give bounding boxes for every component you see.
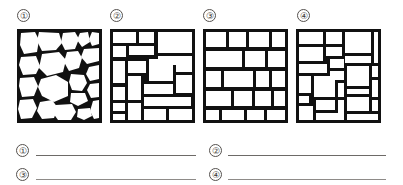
answer-label-2: ②	[209, 144, 222, 157]
answer-label-3: ③	[16, 168, 29, 181]
figure-3-coursed-ashlar-diagram	[203, 29, 288, 123]
coursed-ashlar-svg	[204, 30, 287, 122]
answer-line-2[interactable]	[228, 155, 386, 156]
answer-line-4[interactable]	[228, 179, 386, 180]
figure-2-squared-rubble-diagram	[110, 29, 195, 123]
answer-label-4: ④	[209, 168, 222, 181]
random-rubble-svg	[18, 30, 101, 122]
answer-label-1: ①	[16, 144, 29, 157]
figure-label-2: ②	[110, 9, 123, 22]
masonry-pattern-worksheet: ① ② ③ ④	[0, 0, 403, 185]
figure-1-random-rubble-diagram	[17, 29, 102, 123]
answer-line-3[interactable]	[36, 179, 196, 180]
figure-4-random-ashlar-diagram	[296, 29, 381, 123]
figure-label-3: ③	[203, 9, 216, 22]
figure-label-1: ①	[17, 9, 30, 22]
figure-label-4: ④	[297, 9, 310, 22]
squared-rubble-svg	[111, 30, 194, 122]
answer-line-1[interactable]	[36, 155, 196, 156]
random-ashlar-svg	[297, 30, 380, 122]
